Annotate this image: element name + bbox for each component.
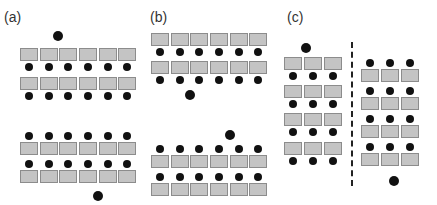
b-bottom-desk [151,183,169,196]
c-left-desk [324,113,342,126]
c-right-desk [401,97,419,110]
panel-label-a: (a) [4,10,21,24]
a-top-desk [79,77,97,90]
a-bottom-desk [99,170,117,183]
a-top-student [84,92,92,100]
b-top-student [235,76,243,84]
a-bottom-desk [20,142,38,155]
c-left-desk [304,85,322,98]
a-bottom-desk [59,170,77,183]
b-bottom-student [254,173,262,181]
b-top-student [176,76,184,84]
c-right-student [406,143,414,151]
c-left-student [309,100,317,108]
b-top-student [254,76,262,84]
b-top-student [156,76,164,84]
c-right-student [366,59,374,67]
a-bottom-desk [59,142,77,155]
a-top-desk [99,48,117,61]
b-top-student [195,48,203,56]
b-top-desk [190,61,208,74]
c-left-student [329,128,337,136]
a-bottom-student [123,132,131,140]
c-left-desk [284,85,302,98]
a-top-desk [99,77,117,90]
c-left-student [329,72,337,80]
b-top-student [215,48,223,56]
b-bottom-desk [230,155,248,168]
c-left-student [289,72,297,80]
c-left-student [289,128,297,136]
b-top-desk [210,33,228,46]
c-left-student [329,100,337,108]
c-left-desk [324,142,342,155]
c-right-desk [361,153,379,166]
c-left-student [309,72,317,80]
dashed-divider [351,42,353,186]
a-top-desk [118,77,136,90]
a-bottom-desk [118,170,136,183]
b-bottom-student [215,145,223,153]
b-top-student [176,48,184,56]
b-top-desk [230,61,248,74]
b-bottom-desk [249,183,267,196]
b-bottom-student [195,145,203,153]
b-bottom-student [176,145,184,153]
b-top-desk [151,33,169,46]
b-top-desk [171,61,189,74]
c-left-desk [284,142,302,155]
b-bottom-student [235,145,243,153]
a-top-desk [79,48,97,61]
c-left-desk [284,113,302,126]
a-top-student [45,63,53,71]
a-top-student [84,63,92,71]
c-right-student [386,115,394,123]
a-top-desk [59,77,77,90]
a-top-desk [20,48,38,61]
a-top-student [64,92,72,100]
b-bottom-desk [230,183,248,196]
a-top-desk [59,48,77,61]
a-top-student [123,92,131,100]
teacher-b-top [185,90,195,100]
b-bottom-student [156,145,164,153]
c-left-desk [304,57,322,70]
c-left-student [309,128,317,136]
c-left-student [329,157,337,165]
a-top-desk [40,48,58,61]
b-top-student [195,76,203,84]
c-left-desk [284,57,302,70]
panel-label-c: (c) [287,10,303,24]
c-right-desk [401,69,419,82]
b-top-desk [210,61,228,74]
b-bottom-student [254,145,262,153]
c-right-desk [361,125,379,138]
a-top-student [104,92,112,100]
a-top-student [64,63,72,71]
b-bottom-student [215,173,223,181]
c-left-desk [304,142,322,155]
b-top-desk [249,33,267,46]
b-top-student [235,48,243,56]
b-bottom-student [235,173,243,181]
a-bottom-student [45,160,53,168]
c-right-student [406,87,414,95]
c-left-student [289,157,297,165]
c-left-desk [324,57,342,70]
b-top-student [156,48,164,56]
a-bottom-student [45,132,53,140]
teacher-b-bottom [225,130,235,140]
c-right-desk [381,125,399,138]
a-bottom-student [25,132,33,140]
c-left-desk [324,85,342,98]
b-bottom-student [195,173,203,181]
a-bottom-desk [118,142,136,155]
a-top-desk [40,77,58,90]
a-bottom-desk [79,142,97,155]
c-right-desk [401,153,419,166]
c-right-student [366,115,374,123]
a-bottom-desk [20,170,38,183]
teacher-a-top [53,31,63,41]
b-bottom-desk [210,155,228,168]
b-bottom-student [156,173,164,181]
